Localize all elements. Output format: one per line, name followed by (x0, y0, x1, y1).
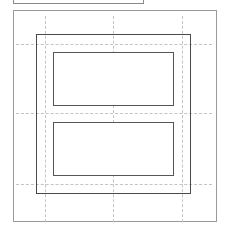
label-rectangle-1[interactable] (53, 52, 174, 106)
top-panel-box (13, 0, 144, 4)
label-rectangle-2[interactable] (53, 122, 174, 176)
